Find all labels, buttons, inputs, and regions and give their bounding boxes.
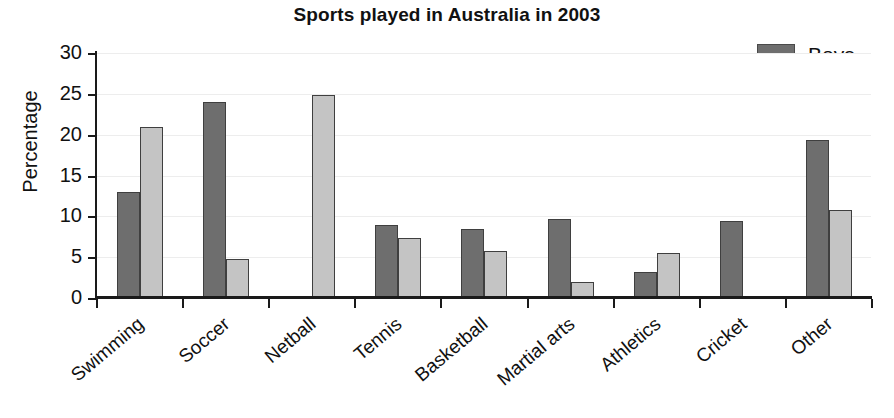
bar-boys-martial-arts (548, 219, 571, 298)
bar-boys-tennis (375, 225, 398, 299)
x-tick-mark (96, 299, 98, 308)
y-tick-label: 10 (42, 205, 82, 225)
bar-boys-basketball (461, 229, 484, 298)
chart-title: Sports played in Australia in 2003 (0, 4, 894, 26)
x-axis-line (95, 296, 872, 299)
x-tick-mark (268, 299, 270, 308)
x-tick-mark (440, 299, 442, 308)
x-tick-mark (182, 299, 184, 308)
y-axis-line (95, 51, 97, 298)
plot-area (96, 53, 871, 298)
bar-girls-soccer (226, 259, 249, 298)
x-tick-mark (785, 299, 787, 308)
bar-girls-other (829, 210, 852, 298)
y-tick-label: 5 (42, 246, 82, 266)
y-tick-label: 30 (42, 42, 82, 62)
x-tick-mark (527, 299, 529, 308)
y-tick-label: 15 (42, 165, 82, 185)
y-axis-tick-labels: 051015202530 (24, 0, 82, 418)
y-tick-label: 0 (42, 287, 82, 307)
bar-chart: Sports played in Australia in 2003 Boys … (0, 0, 894, 418)
x-tick-mark (699, 299, 701, 308)
bar-girls-tennis (398, 238, 421, 298)
bar-boys-cricket (720, 221, 743, 298)
bar-girls-netball (312, 95, 335, 298)
bar-girls-swimming (140, 127, 163, 299)
bar-boys-soccer (203, 102, 226, 298)
gridline (96, 94, 871, 95)
y-tick-label: 25 (42, 83, 82, 103)
x-tick-mark (871, 299, 873, 308)
bar-boys-swimming (117, 192, 140, 298)
x-tick-mark (613, 299, 615, 308)
gridline (96, 53, 871, 54)
bar-boys-athletics (634, 272, 657, 298)
bar-girls-athletics (657, 253, 680, 298)
bar-girls-basketball (484, 251, 507, 298)
bar-boys-other (806, 140, 829, 298)
x-tick-mark (354, 299, 356, 308)
y-tick-label: 20 (42, 124, 82, 144)
